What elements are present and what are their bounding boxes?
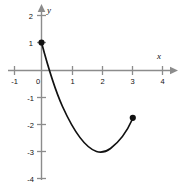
y-axis-arrowhead	[38, 4, 46, 12]
y-tick-label-1: 1	[29, 39, 33, 48]
x-tick-label-1: 1	[70, 77, 74, 86]
parabola-curve	[42, 43, 133, 153]
y-tick-label--3: -3	[27, 148, 34, 157]
x-tick-label-4: 4	[160, 77, 164, 86]
y-axis-label: y	[46, 5, 51, 15]
y-tick-label--1: -1	[27, 94, 34, 103]
x-axis-label: x	[156, 51, 161, 61]
left-endpoint-dot	[38, 39, 44, 45]
right-endpoint-dot	[130, 115, 136, 121]
x-tick-label--1: -1	[11, 77, 18, 86]
graph-figure: -1 0 1 2 3 4 2 1 -1 -2 -3 -4 x y	[0, 0, 180, 186]
x-tick-label-2: 2	[100, 77, 104, 86]
y-tick-label--2: -2	[27, 121, 34, 130]
x-axis-arrowhead	[170, 67, 178, 75]
y-tick-label-2: 2	[29, 12, 33, 21]
coordinate-plane-svg: -1 0 1 2 3 4 2 1 -1 -2 -3 -4 x y	[0, 0, 180, 186]
x-tick-label-3: 3	[130, 77, 134, 86]
y-tick-label--4: -4	[27, 175, 34, 184]
x-tick-label-0: 0	[36, 77, 40, 86]
